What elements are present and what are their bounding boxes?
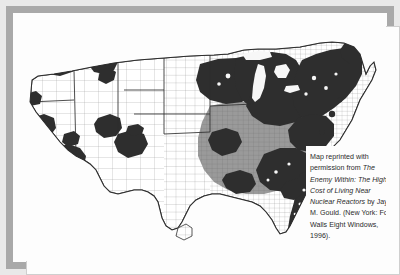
caption-line-1: Map reprinted with: [310, 153, 369, 161]
caption-book-title-5: Reactors: [337, 198, 366, 206]
map-caption: Map reprinted with permission from The E…: [310, 152, 386, 242]
caption-line-2-prefix: permission from: [310, 164, 363, 172]
caption-book-title-1: The: [363, 164, 375, 172]
caption-book-title-2: Enemy Within: The: [310, 176, 370, 184]
map-plate: Map reprinted with permission from The E…: [14, 14, 386, 261]
figure-frame: Map reprinted with permission from The E…: [0, 0, 400, 275]
